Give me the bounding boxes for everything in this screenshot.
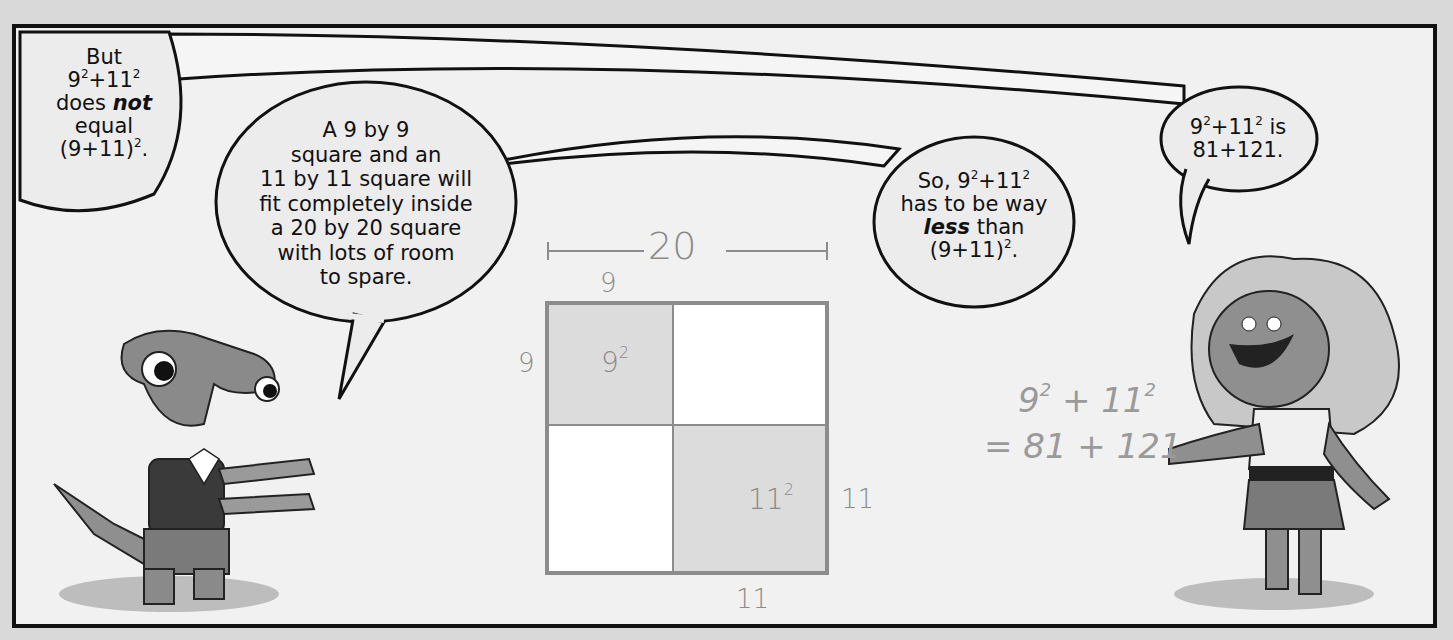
bubble-text-girl: 92+112 is 81+121.: [1166, 116, 1310, 162]
label-square-9sq: 92: [601, 346, 629, 379]
comic-panel: But 92+112 does not equal (9+11)2. A 9 b…: [12, 24, 1437, 628]
handwritten-line-2: = 81 + 121: [984, 426, 1182, 466]
handwritten-line-1: 92 + 112: [1018, 380, 1156, 420]
label-total-20: 20: [648, 224, 696, 268]
bubble-text-conclusion: So, 92+112 has to be way less than (9+11…: [874, 170, 1074, 262]
bubble-connector-middle: [494, 137, 899, 166]
label-square-11sq: 112: [748, 483, 794, 516]
bubble-text-shark: But 92+112 does not equal (9+11)2.: [34, 46, 174, 161]
label-top-9: 9: [600, 268, 617, 298]
girl-with-big-hair: [1169, 256, 1399, 610]
label-bottom-11: 11: [736, 584, 769, 614]
hammerhead-shark-boy: [54, 331, 314, 612]
area-diagram: [547, 242, 827, 573]
label-right-11: 11: [841, 484, 874, 514]
label-left-9: 9: [518, 348, 535, 378]
bubble-text-explain: A 9 by 9 square and an 11 by 11 square w…: [228, 118, 504, 290]
